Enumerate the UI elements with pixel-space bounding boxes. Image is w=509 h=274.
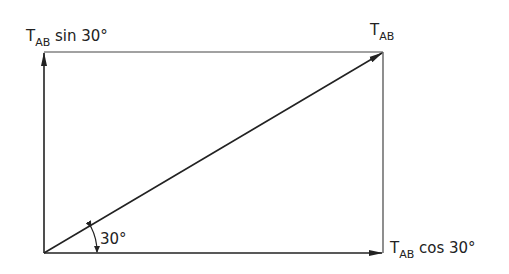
angle-arc bbox=[91, 227, 97, 252]
resultant-arrow bbox=[44, 53, 382, 253]
vector-diagram: TAB sin 30° TAB TAB cos 30° 30° bbox=[0, 0, 509, 274]
resultant-label: TAB bbox=[369, 21, 394, 43]
angle-label: 30° bbox=[100, 230, 127, 248]
vertical-component-label: TAB sin 30° bbox=[25, 27, 108, 49]
horizontal-component-label: TAB cos 30° bbox=[389, 239, 476, 261]
